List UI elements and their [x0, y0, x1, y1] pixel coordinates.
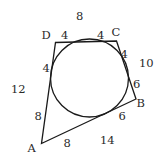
tangent-seg-C-on-CB: 4: [121, 47, 128, 61]
inscribed-circle: [51, 39, 129, 117]
vertex-label-D: D: [42, 28, 51, 42]
vertex-label-B: B: [137, 96, 145, 110]
side-total-AD: 12: [11, 82, 26, 96]
tangent-seg-A-on-AD: 8: [35, 109, 42, 123]
side-total-BA: 14: [100, 133, 115, 147]
tangent-seg-D-on-AD: 4: [43, 61, 50, 75]
tangent-seg-A-on-BA: 8: [64, 136, 71, 150]
tangent-seg-C-on-DC: 4: [97, 28, 104, 42]
tangent-seg-B-on-CB: 6: [133, 77, 140, 91]
tangent-seg-D-on-DC: 4: [61, 28, 68, 42]
vertex-label-C: C: [112, 25, 121, 39]
tangent-seg-B-on-BA: 6: [119, 109, 126, 123]
vertex-label-A: A: [27, 141, 37, 155]
tangential-quadrilateral-diagram: D C B A 8 10 14 12 4 4 4 6 6 8 8 4: [0, 0, 160, 160]
side-total-DC: 8: [76, 9, 83, 23]
side-total-CB: 10: [139, 56, 154, 70]
